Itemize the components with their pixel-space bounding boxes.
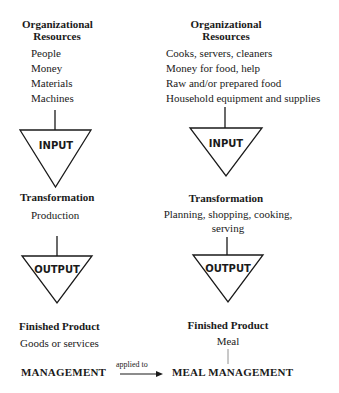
right-output-label: OUTPUT (205, 263, 251, 274)
list-item: Money for food, help (166, 61, 320, 76)
right-resources-heading: Organizational Resources (190, 18, 262, 42)
list-item: Raw and/or prepared food (166, 76, 320, 91)
right-input-triangle (190, 128, 262, 176)
list-item: People (31, 46, 74, 61)
left-transformation-text: Production (31, 208, 79, 223)
left-resources-list: People Money Materials Machines (31, 46, 74, 106)
list-item: Money (31, 61, 74, 76)
heading-line: Organizational (190, 18, 262, 30)
right-transformation-text: Planning, shopping, cooking, serving (158, 207, 298, 234)
right-transformation-heading: Transformation (176, 192, 276, 204)
right-input-label: INPUT (209, 138, 244, 149)
right-resources-list: Cooks, servers, cleaners Money for food,… (166, 46, 320, 106)
transformation-line: serving (158, 222, 298, 234)
heading-line: Resources (22, 30, 92, 42)
transformation-line: Planning, shopping, cooking, (158, 207, 298, 222)
left-input-triangle (20, 130, 91, 187)
heading-line: Organizational (22, 18, 92, 30)
left-product-heading: Finished Product (19, 320, 100, 332)
list-item: Household equipment and supplies (166, 91, 320, 106)
arrow-right-icon (156, 371, 163, 377)
heading-line: Resources (190, 30, 262, 42)
list-item: Machines (31, 91, 74, 106)
left-resources-heading: Organizational Resources (22, 18, 92, 42)
management-label: MANAGEMENT (21, 366, 106, 378)
applied-to-label: applied to (116, 360, 148, 369)
left-transformation-heading: Transformation (20, 191, 92, 203)
list-item: Materials (31, 76, 74, 91)
meal-management-label: MEAL MANAGEMENT (172, 366, 293, 378)
left-input-label: INPUT (39, 140, 74, 151)
right-product-heading: Finished Product (186, 319, 270, 331)
right-product-text: Meal (198, 334, 258, 349)
left-product-text: Goods or services (20, 336, 99, 351)
list-item: Cooks, servers, cleaners (166, 46, 320, 61)
left-output-label: OUTPUT (34, 264, 80, 275)
